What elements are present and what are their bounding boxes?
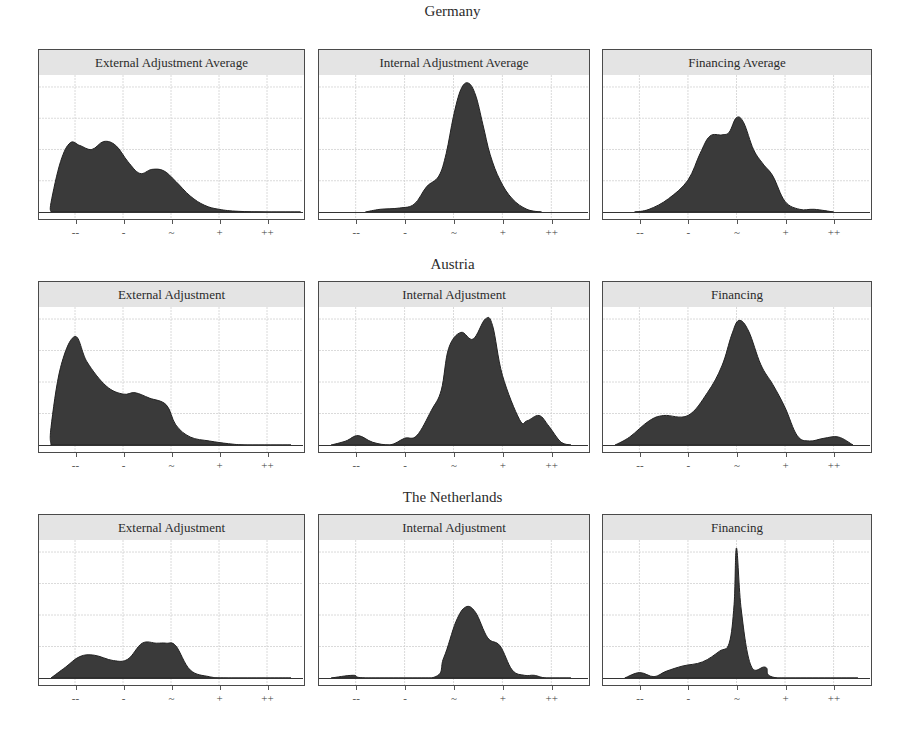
- x-tick-label: --: [353, 692, 360, 704]
- x-tick-mark: [552, 220, 553, 224]
- x-tick-label: --: [636, 692, 643, 704]
- x-tick-mark: [405, 686, 406, 690]
- x-tick-label: ~: [169, 692, 175, 704]
- x-tick-label: ++: [261, 692, 273, 704]
- facet-panel: External Adjustment: [38, 281, 305, 453]
- x-tick-mark: [786, 686, 787, 690]
- x-tick-label: -: [403, 226, 407, 238]
- density-area: [331, 606, 571, 678]
- x-tick-mark: [737, 686, 738, 690]
- x-tick-mark: [454, 686, 455, 690]
- x-tick-label: -: [687, 226, 691, 238]
- x-tick-label: -: [687, 459, 691, 471]
- row-title: The Netherlands: [0, 489, 905, 506]
- x-tick-mark: [688, 686, 689, 690]
- x-tick-mark: [172, 220, 173, 224]
- x-tick-label: --: [72, 459, 79, 471]
- facet-panel: Financing Average: [602, 49, 872, 220]
- density-area: [615, 320, 853, 445]
- density-chart: [319, 75, 588, 219]
- x-tick-label: -: [687, 692, 691, 704]
- x-tick-label: +: [216, 459, 222, 471]
- x-tick-label: ~: [169, 459, 175, 471]
- facet-panel: Internal Adjustment: [318, 281, 590, 453]
- x-tick-label: ++: [261, 226, 273, 238]
- facet-strip-title: Financing: [602, 281, 872, 308]
- density-area: [50, 141, 300, 212]
- density-plot-area: [602, 540, 872, 687]
- x-tick-label: ~: [169, 226, 175, 238]
- density-chart: [39, 540, 303, 685]
- x-tick-mark: [786, 220, 787, 224]
- facet-strip-title: External Adjustment: [38, 281, 305, 308]
- facet-panel: Financing: [602, 281, 872, 453]
- x-tick-label: ~: [451, 459, 457, 471]
- x-tick-label: ~: [451, 692, 457, 704]
- row-title: Austria: [0, 256, 905, 273]
- density-chart: [603, 540, 870, 685]
- density-area: [635, 116, 834, 211]
- x-tick-mark: [737, 453, 738, 457]
- density-plot-area: [602, 307, 872, 454]
- x-tick-label: ++: [828, 692, 840, 704]
- x-tick-label: --: [353, 226, 360, 238]
- x-tick-mark: [268, 453, 269, 457]
- density-plot-area: [38, 307, 305, 454]
- x-tick-label: +: [500, 226, 506, 238]
- density-plot-area: [318, 540, 590, 687]
- x-tick-mark: [268, 686, 269, 690]
- x-tick-label: ++: [828, 459, 840, 471]
- x-tick-label: -: [403, 692, 407, 704]
- x-tick-mark: [640, 220, 641, 224]
- x-tick-label: ++: [546, 692, 558, 704]
- x-tick-mark: [356, 453, 357, 457]
- x-tick-mark: [640, 453, 641, 457]
- density-area: [625, 547, 858, 677]
- x-tick-mark: [834, 453, 835, 457]
- x-tick-mark: [172, 453, 173, 457]
- facet-strip-title: External Adjustment Average: [38, 49, 305, 76]
- x-tick-mark: [503, 686, 504, 690]
- x-tick-mark: [454, 453, 455, 457]
- x-tick-label: ++: [261, 459, 273, 471]
- x-tick-mark: [688, 453, 689, 457]
- x-tick-mark: [454, 220, 455, 224]
- x-tick-label: ++: [828, 226, 840, 238]
- x-tick-mark: [737, 220, 738, 224]
- x-tick-label: --: [72, 692, 79, 704]
- x-tick-mark: [220, 453, 221, 457]
- density-plot-area: [38, 540, 305, 687]
- x-tick-mark: [552, 686, 553, 690]
- x-tick-mark: [688, 220, 689, 224]
- x-tick-label: +: [782, 459, 788, 471]
- x-tick-mark: [124, 686, 125, 690]
- x-tick-mark: [834, 220, 835, 224]
- x-tick-label: +: [500, 459, 506, 471]
- density-chart: [39, 75, 303, 219]
- x-tick-mark: [220, 220, 221, 224]
- x-tick-mark: [172, 686, 173, 690]
- x-tick-mark: [503, 220, 504, 224]
- x-tick-label: --: [636, 226, 643, 238]
- x-tick-label: ~: [734, 459, 740, 471]
- x-tick-label: -: [122, 692, 126, 704]
- x-tick-mark: [405, 453, 406, 457]
- x-tick-label: --: [636, 459, 643, 471]
- x-tick-label: +: [500, 692, 506, 704]
- density-chart: [603, 307, 870, 452]
- x-tick-mark: [640, 686, 641, 690]
- density-area: [51, 641, 291, 677]
- facet-strip-title: Financing Average: [602, 49, 872, 76]
- density-plot-area: [318, 307, 590, 454]
- x-tick-label: +: [216, 692, 222, 704]
- facet-strip-title: Internal Adjustment Average: [318, 49, 590, 76]
- x-tick-label: +: [216, 226, 222, 238]
- x-tick-label: +: [782, 692, 788, 704]
- x-tick-mark: [76, 453, 77, 457]
- facet-panel: Internal Adjustment: [318, 514, 590, 686]
- density-plot-area: [602, 75, 872, 221]
- x-tick-label: ~: [734, 692, 740, 704]
- density-chart: [319, 540, 588, 685]
- x-tick-label: -: [122, 459, 126, 471]
- x-tick-mark: [405, 220, 406, 224]
